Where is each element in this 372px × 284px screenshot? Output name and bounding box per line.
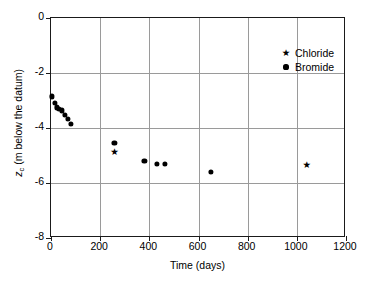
data-point-bromide	[162, 162, 167, 167]
plot-area: ★★ ★ Chloride Bromide	[50, 17, 345, 237]
data-point-bromide	[69, 122, 74, 127]
gridline-vertical	[248, 18, 249, 236]
circle-icon	[279, 64, 293, 69]
x-axis-tick-label: 200	[79, 241, 119, 252]
data-point-bromide	[208, 169, 213, 174]
gridline-vertical	[100, 18, 101, 236]
data-point-chloride: ★	[302, 160, 311, 170]
legend-item-chloride: ★ Chloride	[279, 46, 334, 60]
y-axis-units: (m below the datum)	[12, 69, 24, 168]
y-axis-tick-label: 0	[16, 11, 44, 22]
y-axis-tick	[46, 128, 51, 129]
x-axis-tick-label: 600	[178, 241, 218, 252]
x-axis-tick-label: 0	[30, 241, 70, 252]
data-point-bromide	[50, 94, 55, 99]
x-axis-tick-label: 1000	[276, 241, 316, 252]
gridline-horizontal	[51, 183, 344, 184]
y-axis-variable-subscript: c	[17, 168, 26, 172]
legend-label-bromide: Bromide	[293, 60, 334, 74]
legend: ★ Chloride Bromide	[279, 46, 334, 74]
data-point-bromide	[57, 106, 62, 111]
data-point-chloride: ★	[110, 147, 119, 157]
data-point-bromide	[66, 116, 71, 121]
data-point-bromide	[142, 158, 147, 163]
legend-marker-glyph-bromide	[283, 64, 288, 69]
y-axis-title: zc (m below the datum)	[12, 28, 26, 218]
gridline-vertical	[149, 18, 150, 236]
legend-label-chloride: Chloride	[293, 46, 334, 60]
data-point-bromide	[62, 112, 67, 117]
x-axis-title: Time (days)	[50, 259, 345, 271]
y-axis-tick	[46, 183, 51, 184]
data-point-bromide	[59, 108, 64, 113]
gridline-horizontal	[51, 128, 344, 129]
gridline-vertical	[199, 18, 200, 236]
data-point-bromide	[54, 105, 59, 110]
data-point-bromide	[154, 161, 159, 166]
y-axis-tick	[46, 18, 51, 19]
y-axis-tick	[46, 238, 51, 239]
legend-marker-glyph-chloride: ★	[282, 48, 291, 58]
x-axis-tick-label: 1200	[325, 241, 365, 252]
data-point-bromide	[52, 101, 57, 106]
chart-figure: 0-2-4-6-8 zc (m below the datum) ★★ ★ Ch…	[0, 0, 372, 284]
y-axis-tick	[46, 73, 51, 74]
y-axis-variable: z	[12, 171, 24, 176]
star-icon: ★	[279, 48, 293, 58]
legend-item-bromide: Bromide	[279, 60, 334, 74]
x-axis-tick-label: 800	[227, 241, 267, 252]
data-point-bromide	[112, 141, 117, 146]
x-axis-tick-label: 400	[128, 241, 168, 252]
